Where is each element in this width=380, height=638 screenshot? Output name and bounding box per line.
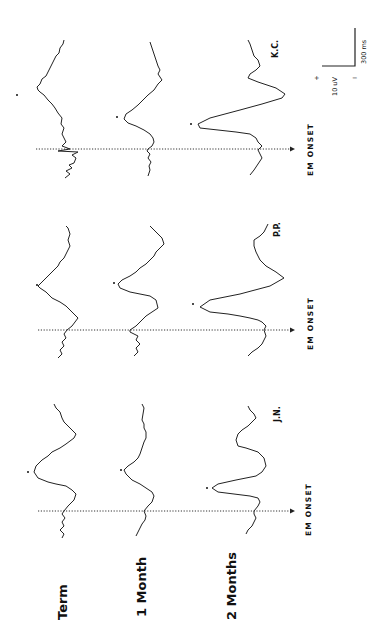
peak-marker bbox=[16, 94, 18, 96]
peak-marker bbox=[192, 303, 194, 305]
scale-bar: + − 10 uV 300 ms bbox=[314, 28, 368, 96]
trace-2months bbox=[212, 406, 266, 534]
row-label-1-month: 1 Month bbox=[134, 557, 149, 617]
scale-minus: − bbox=[352, 74, 357, 82]
panel-jn: EM ONSET J.N. bbox=[27, 404, 313, 538]
em-onset-label: EM ONSET bbox=[306, 297, 315, 350]
peak-marker bbox=[27, 471, 29, 473]
subject-label: P.P. bbox=[273, 222, 282, 237]
trace-1month bbox=[124, 42, 162, 176]
trace-term bbox=[37, 40, 78, 178]
em-onset-label: EM ONSET bbox=[304, 483, 313, 536]
peak-marker bbox=[36, 284, 38, 286]
peak-marker bbox=[120, 469, 122, 471]
trace-term bbox=[34, 404, 76, 538]
arrow-icon bbox=[290, 509, 295, 514]
subject-label: K.C. bbox=[271, 40, 280, 58]
peak-marker bbox=[206, 487, 208, 489]
em-onset-label: EM ONSET bbox=[306, 123, 315, 176]
panel-kc: EM ONSET K.C. + − 10 uV 300 ms bbox=[16, 28, 368, 178]
subject-label: J.N. bbox=[273, 406, 282, 423]
trace-1month bbox=[124, 404, 154, 536]
trace-1month bbox=[118, 226, 164, 356]
peak-marker bbox=[116, 116, 118, 118]
trace-2months bbox=[198, 40, 285, 175]
row-label-term: Term bbox=[55, 584, 70, 620]
peak-marker bbox=[190, 123, 192, 125]
panel-pp: EM ONSET P.P. bbox=[36, 222, 315, 358]
scale-amplitude: 10 uV bbox=[331, 77, 339, 96]
erp-figure: EM ONSET K.C. + − 10 uV 300 ms EM ONSET … bbox=[0, 0, 380, 638]
arrow-icon bbox=[290, 147, 295, 152]
row-label-2-months: 2 Months bbox=[224, 552, 239, 620]
trace-2months bbox=[200, 224, 284, 356]
scale-plus: + bbox=[314, 74, 319, 82]
scale-time: 300 ms bbox=[360, 39, 368, 64]
trace-term bbox=[38, 226, 78, 358]
arrow-icon bbox=[290, 328, 295, 333]
peak-marker bbox=[113, 282, 115, 284]
